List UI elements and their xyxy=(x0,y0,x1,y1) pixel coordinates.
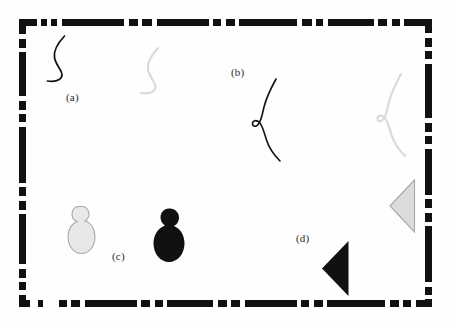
figure-plate: (a) (b) (c) (d) xyxy=(0,0,451,327)
panel-label-d: (d) xyxy=(296,232,309,244)
panel-label-c: (c) xyxy=(112,250,125,262)
plate-background xyxy=(0,0,451,327)
figure-canvas xyxy=(0,0,451,327)
panel-label-b: (b) xyxy=(231,66,244,78)
panel-label-a: (a) xyxy=(66,91,79,103)
